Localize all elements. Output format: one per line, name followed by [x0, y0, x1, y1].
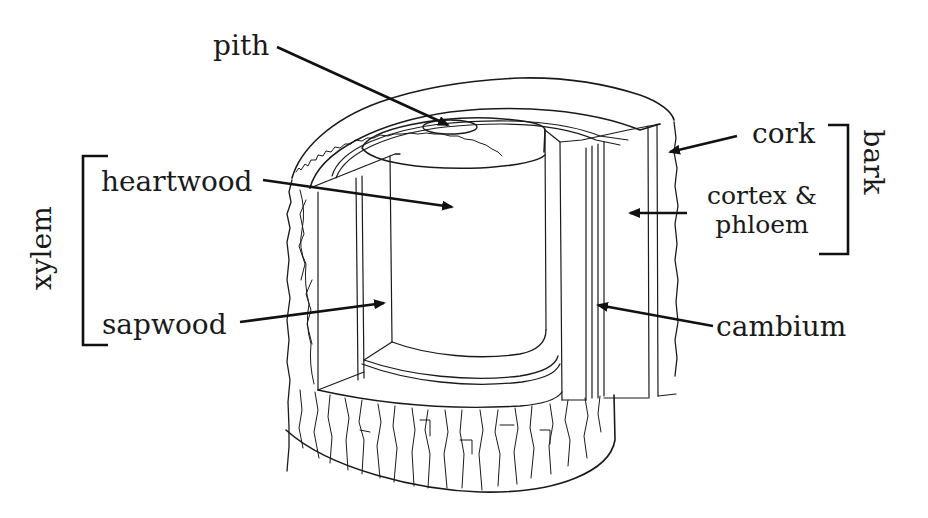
trunk-body: [286, 78, 678, 492]
tree-trunk-diagram: pith heartwood sapwood xylem cork cortex…: [0, 0, 928, 518]
cambium-label: cambium: [716, 313, 846, 341]
cambium-arrow: [598, 305, 713, 326]
pith-label: pith: [213, 32, 269, 60]
sapwood-label: sapwood: [102, 311, 227, 339]
xylem-label: xylem: [28, 210, 56, 290]
bark-bracket: [819, 125, 848, 254]
cork-arrow: [670, 136, 737, 152]
cork-label: cork: [752, 120, 815, 148]
pith-arrow: [277, 47, 448, 125]
cortex-phloem-line1: cortex &: [706, 182, 818, 211]
heartwood-label: heartwood: [101, 168, 253, 196]
cortex-phloem-label: cortex & phloem: [706, 182, 818, 240]
cortex-phloem-line2: phloem: [706, 211, 818, 240]
bark-label: bark: [859, 127, 887, 197]
trunk-illustration: [0, 0, 928, 518]
sapwood-arrow: [240, 303, 384, 322]
